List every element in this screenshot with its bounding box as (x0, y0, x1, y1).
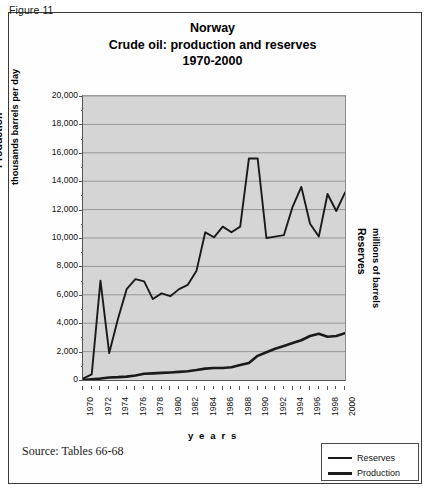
series-line-reserves (83, 158, 345, 378)
y-tick-label: 0 (32, 374, 78, 384)
x-tick-label: 1980 (173, 397, 183, 416)
y-axis-tick (79, 352, 83, 353)
x-axis-tick-minor (318, 386, 319, 389)
x-axis-tick (169, 386, 170, 390)
y-tick-label: 16,000 (32, 147, 78, 157)
x-axis-tick-minor (230, 386, 231, 389)
y-axis-tick-labels: 02,0004,0006,0008,00010,00012,00014,0001… (30, 95, 78, 379)
x-tick-label: 1998 (330, 397, 340, 416)
x-axis-tick-minor (161, 386, 162, 389)
x-axis-tick-minor (213, 386, 214, 389)
x-axis-tick-labels: 1970197219741976197819801982198419861988… (82, 386, 344, 426)
y-axis-tick (79, 238, 83, 239)
x-axis-tick-minor (283, 386, 284, 389)
figure-label: Figure 11 (9, 4, 53, 16)
x-axis-tick (99, 386, 100, 390)
x-tick-label: 1984 (208, 397, 218, 416)
x-axis-title: y e a r s (82, 430, 344, 441)
y-axis-tick-minor (81, 224, 83, 225)
legend-label: Reserves (357, 453, 395, 463)
x-axis-tick (82, 386, 83, 390)
x-axis-tick (344, 386, 345, 390)
x-axis-tick-minor (335, 386, 336, 389)
legend-line-icon (328, 457, 352, 459)
y-axis-tick (79, 153, 83, 154)
x-axis-tick-minor (248, 386, 249, 389)
y-axis-subtitle-left: thousands barrels per day (10, 69, 20, 185)
x-axis-tick (222, 386, 223, 390)
legend: ReservesProduction (321, 443, 419, 481)
chart-title-line3: 1970-2000 (40, 53, 385, 70)
y-axis-tick (79, 266, 83, 267)
x-axis-tick (309, 386, 310, 390)
y-tick-label: 10,000 (32, 232, 78, 242)
chart-title: Norway Crude oil: production and reserve… (40, 20, 385, 70)
chart-title-line1: Norway (40, 20, 385, 37)
series-line-production (83, 333, 345, 380)
source-note: Source: Tables 66-68 (22, 444, 124, 459)
y-axis-tick (79, 210, 83, 211)
y-axis-tick-minor (81, 309, 83, 310)
x-tick-label: 1978 (155, 397, 165, 416)
x-tick-label: 1976 (138, 397, 148, 416)
y-tick-label: 14,000 (32, 175, 78, 185)
y-axis-tick-minor (81, 195, 83, 196)
x-axis-tick-minor (108, 386, 109, 389)
legend-label: Production (357, 468, 400, 478)
y-axis-title-left: Production (0, 113, 4, 168)
y-axis-tick-minor (81, 252, 83, 253)
x-tick-label: 1972 (103, 397, 113, 416)
y-tick-label: 6,000 (32, 289, 78, 299)
y-axis-tick-minor (81, 139, 83, 140)
y-tick-label: 8,000 (32, 260, 78, 270)
x-axis-tick (239, 386, 240, 390)
chart-canvas (83, 96, 345, 380)
x-tick-label: 1996 (312, 397, 322, 416)
y-tick-label: 20,000 (32, 90, 78, 100)
y-axis-tick-minor (81, 337, 83, 338)
x-axis-tick (292, 386, 293, 390)
y-axis-tick (79, 96, 83, 97)
y-tick-label: 2,000 (32, 346, 78, 356)
x-axis-tick (134, 386, 135, 390)
x-axis-tick-minor (126, 386, 127, 389)
x-axis-tick-minor (143, 386, 144, 389)
x-tick-label: 1986 (225, 397, 235, 416)
x-axis-tick-minor (265, 386, 266, 389)
chart-title-line2: Crude oil: production and reserves (40, 37, 385, 54)
x-tick-label: 1990 (260, 397, 270, 416)
y-axis-title-right: Reserves (356, 228, 368, 275)
x-tick-label: 1982 (190, 397, 200, 416)
y-axis-tick-minor (81, 167, 83, 168)
x-tick-label: 1994 (295, 397, 305, 416)
x-axis-tick-minor (178, 386, 179, 389)
y-tick-label: 18,000 (32, 118, 78, 128)
y-axis-tick (79, 323, 83, 324)
x-axis-tick (187, 386, 188, 390)
x-tick-label: 1992 (278, 397, 288, 416)
x-tick-label: 1970 (85, 397, 95, 416)
y-axis-tick (79, 181, 83, 182)
x-axis-tick (117, 386, 118, 390)
plot-area (82, 95, 346, 381)
x-axis-tick-minor (196, 386, 197, 389)
y-axis-subtitle-right: millions of barrels (371, 228, 381, 308)
x-axis-tick-minor (91, 386, 92, 389)
x-axis-tick (274, 386, 275, 390)
y-tick-label: 12,000 (32, 204, 78, 214)
y-axis-tick-minor (81, 110, 83, 111)
legend-line-icon (328, 472, 352, 475)
legend-item-reserves[interactable]: Reserves (328, 451, 395, 465)
y-axis-tick-minor (81, 281, 83, 282)
x-axis-tick (327, 386, 328, 390)
x-axis-tick (152, 386, 153, 390)
y-tick-label: 4,000 (32, 317, 78, 327)
x-axis-tick (257, 386, 258, 390)
x-tick-label: 1988 (243, 397, 253, 416)
legend-item-production[interactable]: Production (328, 466, 400, 480)
y-axis-tick (79, 295, 83, 296)
y-axis-tick-minor (81, 366, 83, 367)
y-axis-tick (79, 124, 83, 125)
y-axis-tick (79, 380, 83, 381)
x-tick-label: 1974 (120, 397, 130, 416)
